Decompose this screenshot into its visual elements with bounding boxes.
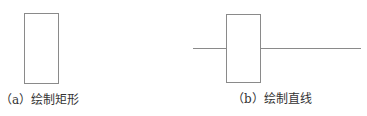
caption-b: （b）绘制直线 bbox=[232, 92, 312, 106]
rectangle-b bbox=[227, 15, 261, 83]
caption-a: （a）绘制矩形 bbox=[0, 93, 79, 107]
rectangle-a bbox=[25, 14, 59, 84]
